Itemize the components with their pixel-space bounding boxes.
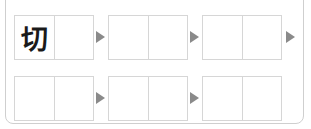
char-cell[interactable] (242, 16, 282, 59)
arrow-right-icon (190, 92, 199, 104)
char-cell[interactable] (148, 77, 188, 120)
arrow-right-icon (96, 31, 105, 43)
char-cell[interactable] (203, 77, 242, 120)
word-box-r2-1 (14, 76, 94, 121)
word-box-r2-2 (108, 76, 188, 121)
char-cell[interactable] (54, 16, 94, 59)
word-box-r2-3 (202, 76, 282, 121)
arrow-right-icon (190, 31, 199, 43)
char-cell[interactable]: 切 (15, 16, 54, 59)
char-cell[interactable] (15, 77, 54, 120)
arrow-right-icon (286, 31, 295, 43)
word-box-r1-3 (202, 15, 282, 60)
char-cell[interactable] (203, 16, 242, 59)
arrow-right-icon (96, 92, 105, 104)
char-cell[interactable] (148, 16, 188, 59)
char-cell[interactable] (54, 77, 94, 120)
char-cell[interactable] (242, 77, 282, 120)
word-box-r1-1: 切 (14, 15, 94, 60)
char-cell[interactable] (109, 16, 148, 59)
word-box-r1-2 (108, 15, 188, 60)
char-cell[interactable] (109, 77, 148, 120)
